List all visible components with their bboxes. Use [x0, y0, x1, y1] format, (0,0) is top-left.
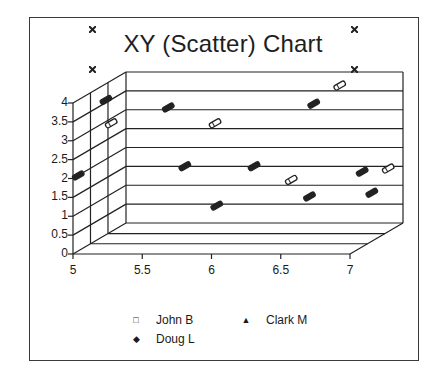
- square-marker-icon: [382, 163, 395, 173]
- square-marker-icon: [333, 80, 346, 90]
- square-marker-icon: [209, 118, 222, 128]
- legend-item-john-b[interactable]: □ John B: [130, 313, 193, 327]
- legend-label: John B: [156, 313, 193, 327]
- y-tick-label: 1: [38, 208, 68, 222]
- legend-item-doug-l[interactable]: ◆ Doug L: [130, 332, 195, 346]
- y-tick-label: 2.5: [38, 152, 68, 166]
- data-points: [72, 80, 395, 210]
- diamond-marker-icon: [210, 200, 223, 210]
- legend-label: Clark M: [266, 313, 307, 327]
- diamond-marker-icon: [162, 102, 175, 112]
- diamond-marker-icon: [356, 166, 369, 176]
- y-tick-label: 4: [38, 95, 68, 109]
- square-marker-icon: □: [130, 315, 142, 325]
- x-tick-label: 7: [335, 263, 365, 277]
- triangle-marker-icon: ▲: [240, 315, 252, 325]
- triangle-marker-icon: [248, 161, 261, 171]
- diamond-marker-icon: [100, 95, 113, 105]
- triangle-marker-icon: [303, 191, 316, 201]
- square-marker-icon: [105, 118, 118, 128]
- legend-label: Doug L: [156, 332, 195, 346]
- x-tick-label: 6: [197, 263, 227, 277]
- y-tick-label: 3: [38, 133, 68, 147]
- legend-item-clark-m[interactable]: ▲ Clark M: [240, 313, 307, 327]
- triangle-marker-icon: [178, 161, 191, 171]
- diamond-marker-icon: [307, 99, 320, 109]
- square-marker-icon: [285, 175, 298, 185]
- gridlines: [68, 72, 403, 259]
- x-tick-label: 5: [58, 263, 88, 277]
- y-tick-label: 0.5: [38, 227, 68, 241]
- diamond-marker-icon: ◆: [130, 334, 142, 344]
- y-tick-label: 0: [38, 246, 68, 260]
- x-tick-label: 6.5: [266, 263, 296, 277]
- x-tick-label: 5.5: [127, 263, 157, 277]
- y-tick-label: 2: [38, 171, 68, 185]
- y-tick-label: 1.5: [38, 189, 68, 203]
- triangle-marker-icon: [365, 188, 378, 198]
- diamond-marker-icon: [72, 170, 85, 180]
- y-tick-label: 3.5: [38, 114, 68, 128]
